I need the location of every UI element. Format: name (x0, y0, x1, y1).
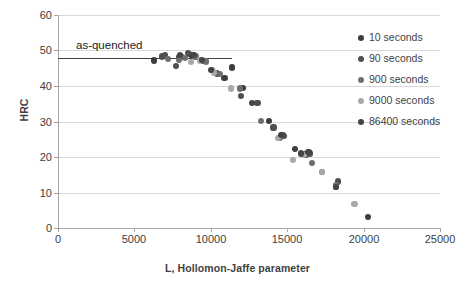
data-point (165, 56, 171, 62)
y-axis-tick-label: 60 (0, 10, 52, 21)
data-point (292, 146, 298, 152)
data-point (255, 100, 261, 106)
legend-item-10-seconds[interactable]: 10 seconds (358, 27, 440, 48)
x-axis-tick (134, 228, 135, 232)
legend-item-label: 90 seconds (369, 53, 423, 64)
data-point (319, 169, 325, 175)
legend-marker-icon (358, 98, 364, 104)
legend-item-label: 86400 seconds (369, 116, 440, 127)
y-axis-title: HRC (18, 80, 30, 140)
data-point (237, 85, 243, 91)
data-point (266, 118, 272, 124)
x-axis-tick (440, 228, 441, 232)
data-point (270, 124, 276, 130)
legend-item-label: 900 seconds (369, 74, 429, 85)
x-axis-tick (287, 228, 288, 232)
data-point (365, 214, 371, 220)
data-point (249, 100, 255, 106)
data-point (173, 63, 179, 69)
data-point (290, 157, 296, 163)
legend-marker-icon (358, 56, 364, 62)
y-axis-tick-label: 10 (0, 188, 52, 199)
data-point (229, 64, 235, 70)
y-axis-tick-label: 20 (0, 152, 52, 163)
x-axis-tick (58, 228, 59, 232)
legend-item-label: 9000 seconds (369, 95, 434, 106)
x-axis-tick-label: 5000 (99, 234, 169, 245)
chart-container: 0102030405060 0500010000150002000025000 … (0, 0, 475, 289)
data-point (228, 85, 234, 91)
data-point (298, 150, 304, 156)
y-axis-tick-label: 0 (0, 223, 52, 234)
data-point (208, 67, 214, 73)
legend-item-900-seconds[interactable]: 900 seconds (358, 69, 440, 90)
data-point (238, 93, 244, 99)
data-point (258, 118, 264, 124)
x-axis-tick-label: 10000 (176, 234, 246, 245)
x-axis-title: L, Hollomon-Jaffe parameter (0, 262, 475, 274)
y-axis-tick-label: 50 (0, 45, 52, 56)
x-axis-tick-label: 0 (23, 234, 93, 245)
data-point (151, 57, 157, 63)
data-point (188, 59, 194, 65)
x-axis-tick-label: 15000 (252, 234, 322, 245)
legend-item-label: 10 seconds (369, 32, 423, 43)
x-axis-tick (364, 228, 365, 232)
legend-item-9000-seconds[interactable]: 9000 seconds (358, 90, 440, 111)
legend-marker-icon (358, 35, 364, 41)
data-point (199, 57, 205, 63)
legend-marker-icon (358, 77, 364, 83)
data-point (278, 132, 284, 138)
x-axis-tick-label: 25000 (405, 234, 475, 245)
data-point (333, 184, 339, 190)
data-point (351, 201, 357, 207)
legend-item-86400-seconds[interactable]: 86400 seconds (358, 111, 440, 132)
x-axis-line (58, 228, 441, 229)
x-axis-tick (211, 228, 212, 232)
data-point (309, 160, 315, 166)
legend-item-90-seconds[interactable]: 90 seconds (358, 48, 440, 69)
legend-marker-icon (358, 119, 364, 125)
chart-legend: 10 seconds90 seconds900 seconds9000 seco… (358, 27, 440, 132)
x-axis-tick-label: 20000 (329, 234, 399, 245)
